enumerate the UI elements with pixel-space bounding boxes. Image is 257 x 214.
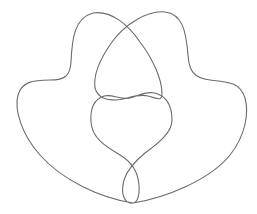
knot-strand xyxy=(17,12,247,203)
knot-curve xyxy=(0,0,257,214)
knot-diagram-canvas xyxy=(0,0,257,214)
